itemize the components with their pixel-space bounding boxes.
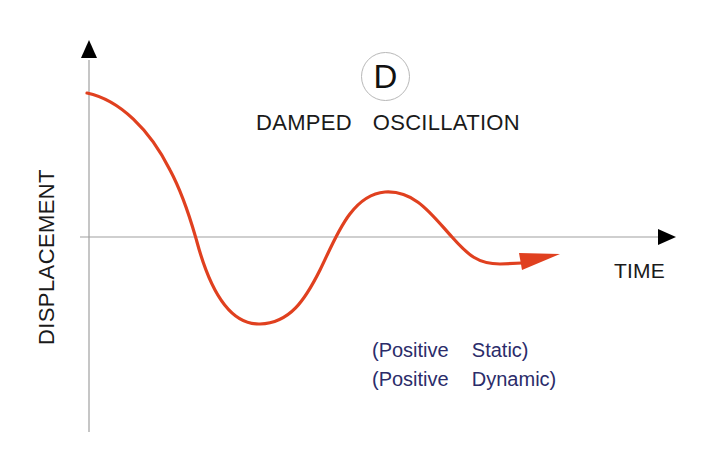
diagram-title: DAMPED OSCILLATION [256,110,520,136]
badge-letter: D [374,60,398,93]
annotation-dynamic: (Positive Dynamic) [372,368,556,391]
x-axis-label: TIME [614,259,665,283]
y-axis-label: DISPLACEMENT [34,169,60,345]
curve-arrowhead-icon [519,253,560,270]
oscillation-diagram [0,0,720,450]
annotation-static: (Positive Static) [372,339,528,362]
y-axis-arrow-icon [81,40,97,58]
diagram-badge: D [361,52,410,101]
x-axis-arrow-icon [658,229,676,245]
